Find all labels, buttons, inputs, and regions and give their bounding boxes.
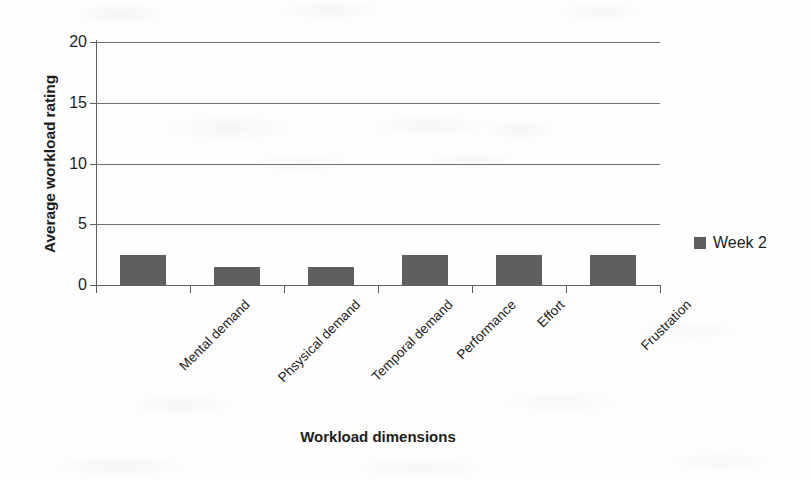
x-category-label: Phsysical demand bbox=[275, 297, 363, 385]
bar bbox=[308, 267, 354, 285]
y-tick-label: 0 bbox=[78, 276, 87, 294]
y-tick-mark bbox=[90, 103, 96, 104]
x-tick-mark bbox=[660, 285, 661, 293]
x-category-label: Mental demand bbox=[176, 297, 252, 373]
gridline bbox=[96, 224, 660, 225]
x-tick-mark bbox=[378, 285, 379, 293]
x-category-label: Temporal demand bbox=[369, 297, 456, 384]
bar bbox=[120, 255, 166, 285]
x-tick-mark bbox=[190, 285, 191, 293]
legend: Week 2 bbox=[694, 234, 767, 252]
x-tick-mark bbox=[284, 285, 285, 293]
y-tick-mark bbox=[90, 224, 96, 225]
gridline bbox=[96, 164, 660, 165]
y-tick-label: 20 bbox=[69, 33, 87, 51]
y-tick-mark bbox=[90, 42, 96, 43]
y-tick-mark bbox=[90, 164, 96, 165]
x-category-label: Effort bbox=[534, 297, 567, 330]
x-category-label: Performance bbox=[454, 297, 519, 362]
y-axis-title: Average workload rating bbox=[41, 39, 59, 289]
x-tick-mark bbox=[472, 285, 473, 293]
x-tick-mark bbox=[566, 285, 567, 293]
gridline bbox=[96, 42, 660, 43]
bar bbox=[402, 255, 448, 285]
plot-area: 05101520 bbox=[96, 42, 660, 285]
bar bbox=[214, 267, 260, 285]
y-tick-label: 10 bbox=[69, 155, 87, 173]
bar bbox=[590, 255, 636, 285]
legend-label-week-2: Week 2 bbox=[713, 234, 767, 252]
x-category-label: Frustration bbox=[638, 297, 694, 353]
legend-swatch-week-2 bbox=[694, 237, 706, 249]
y-tick-label: 15 bbox=[69, 94, 87, 112]
bar bbox=[496, 255, 542, 285]
x-axis-title: Workload dimensions bbox=[96, 428, 660, 445]
x-tick-mark bbox=[96, 285, 97, 293]
y-tick-label: 5 bbox=[78, 215, 87, 233]
gridline bbox=[96, 103, 660, 104]
bar-chart: Average workload rating 05101520 Mental … bbox=[0, 0, 811, 480]
